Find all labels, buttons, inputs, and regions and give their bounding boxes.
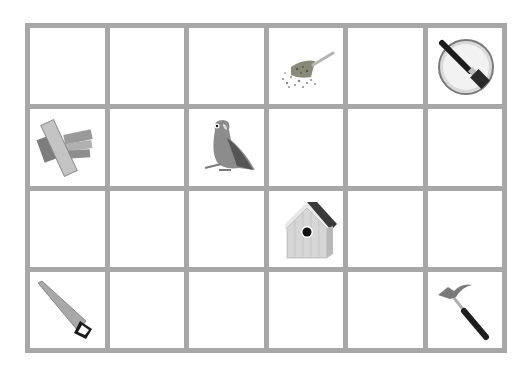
cell-r4-c6[interactable] xyxy=(428,272,503,348)
cell-r2-c3[interactable] xyxy=(189,109,264,185)
cell-r4-c4[interactable] xyxy=(269,272,344,348)
cell-r1-c3[interactable] xyxy=(189,28,264,104)
cell-r1-c2[interactable] xyxy=(110,28,185,104)
seed-scoop-icon xyxy=(273,33,339,99)
cell-r2-c4[interactable] xyxy=(269,109,344,185)
cell-r4-c3[interactable] xyxy=(189,272,264,348)
cell-r3-c1[interactable] xyxy=(30,191,105,267)
cell-r4-c1[interactable] xyxy=(30,272,105,348)
cell-r1-c4[interactable] xyxy=(269,28,344,104)
cell-r3-c4[interactable] xyxy=(269,191,344,267)
hand-saw-icon xyxy=(34,277,100,343)
cell-r1-c1[interactable] xyxy=(30,28,105,104)
cell-r4-c2[interactable] xyxy=(110,272,185,348)
cell-r1-c5[interactable] xyxy=(348,28,423,104)
parrot-icon xyxy=(193,114,259,180)
hammer-icon xyxy=(432,277,498,343)
wood-planks-icon xyxy=(34,114,100,180)
cell-r2-c2[interactable] xyxy=(110,109,185,185)
cell-r1-c6[interactable] xyxy=(428,28,503,104)
cell-r3-c2[interactable] xyxy=(110,191,185,267)
cell-r2-c6[interactable] xyxy=(428,109,503,185)
cell-r4-c5[interactable] xyxy=(348,272,423,348)
cell-r3-c6[interactable] xyxy=(428,191,503,267)
birdhouse-icon xyxy=(273,196,339,262)
cell-r3-c5[interactable] xyxy=(348,191,423,267)
paint-can-brush-icon xyxy=(432,33,498,99)
cell-r2-c5[interactable] xyxy=(348,109,423,185)
cell-r2-c1[interactable] xyxy=(30,109,105,185)
game-board xyxy=(25,23,507,353)
cell-r3-c3[interactable] xyxy=(189,191,264,267)
